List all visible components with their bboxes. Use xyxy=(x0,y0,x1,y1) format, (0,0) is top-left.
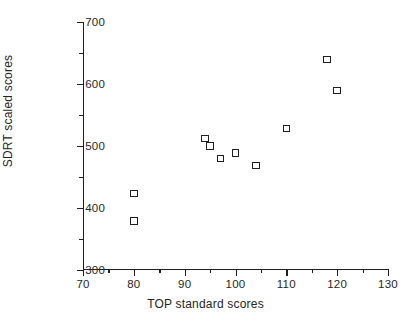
data-point xyxy=(217,155,224,162)
x-tick-minor xyxy=(108,269,109,273)
x-tick-major xyxy=(185,269,186,276)
x-tick-major xyxy=(134,269,135,276)
y-tick-label: 500 xyxy=(85,140,105,152)
plot-area: 300400500600700 708090100110120130 xyxy=(83,22,388,270)
data-point xyxy=(201,135,208,142)
y-tick-label: 600 xyxy=(85,78,105,90)
data-point xyxy=(252,162,259,169)
x-tick-label: 110 xyxy=(277,278,296,290)
data-point xyxy=(206,142,213,149)
x-tick-major xyxy=(388,269,389,276)
x-tick-minor xyxy=(159,269,160,273)
x-tick-minor xyxy=(210,269,211,273)
data-point xyxy=(130,190,137,197)
data-point xyxy=(283,125,290,132)
x-tick-label: 100 xyxy=(226,278,246,290)
y-tick-label: 400 xyxy=(85,202,105,214)
data-point xyxy=(232,149,239,156)
data-point xyxy=(323,56,330,63)
x-tick-minor xyxy=(261,269,262,273)
x-tick-major xyxy=(236,269,237,276)
x-tick-label: 70 xyxy=(76,278,89,290)
x-axis-title: TOP standard scores xyxy=(0,297,411,311)
x-tick-label: 80 xyxy=(127,278,140,290)
x-tick-label: 130 xyxy=(378,278,398,290)
data-point xyxy=(333,87,340,94)
scatter-plot-figure: 300400500600700 708090100110120130 TOP s… xyxy=(0,0,411,321)
data-point xyxy=(130,217,137,224)
y-axis-title: SDRT scaled scores xyxy=(1,11,15,211)
x-tick-minor xyxy=(363,269,364,273)
x-tick-major xyxy=(286,269,287,276)
x-tick-label: 90 xyxy=(178,278,191,290)
x-tick-label: 120 xyxy=(327,278,347,290)
x-tick-major xyxy=(337,269,338,276)
y-tick-label: 700 xyxy=(85,16,105,28)
y-axis-tick-labels: 300400500600700 xyxy=(71,22,105,270)
y-tick-label: 300 xyxy=(85,264,105,276)
x-tick-minor xyxy=(312,269,313,273)
